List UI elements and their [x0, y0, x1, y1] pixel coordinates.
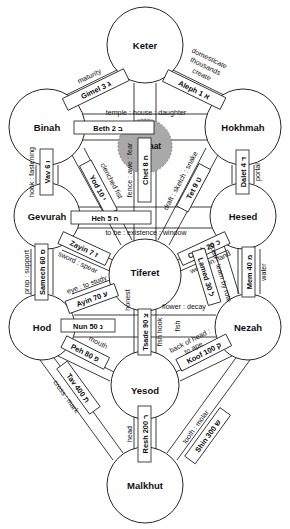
resh-meaning: head	[126, 426, 134, 442]
path-label-tsade[interactable]: Tsade 90 צ fish hook	[138, 309, 164, 355]
nun-letter-label: Nun 50 נ	[73, 322, 103, 331]
resh-letter-label: Resh 200 ר	[141, 415, 150, 454]
path-label-shin[interactable]: Shin 300 ש tooth : molar	[175, 401, 230, 464]
flower-decay-label: flower : decay	[162, 303, 206, 311]
samech-meaning: prop : support	[23, 250, 31, 294]
tiferet-label: Tiferet	[131, 267, 161, 278]
chet-letter-label: Chet 8 ח	[141, 155, 150, 185]
tree-of-life-diagram: Daat Keter Binah Hokhmah Gevurah Hes	[0, 0, 290, 529]
gevurah-label: Gevurah	[28, 211, 67, 222]
dalet-letter-label: Dalet 4 ד	[239, 156, 248, 187]
path-label-samech[interactable]: Samech 60 ס prop : support	[23, 244, 48, 300]
path-label-zayin[interactable]: Zayin 7 ז sword : spear	[52, 232, 110, 278]
hokhmah-label: Hokhmah	[221, 122, 264, 133]
binah-label: Binah	[34, 122, 61, 133]
path-label-chet[interactable]: Chet 8 ח fence : awe : fear	[126, 138, 151, 202]
beth-letter-label: Beth 2 ב	[93, 124, 123, 133]
beth-meaning: temple : house : daughter	[106, 109, 187, 117]
nun-meaning: fish	[174, 320, 182, 331]
path-label-mem[interactable]: Mem 40 מ water	[242, 247, 268, 297]
path-label-yod[interactable]: Yod 10 י clenched fist	[80, 154, 128, 215]
heh-letter-label: Heh 5 ה	[91, 214, 118, 223]
sefira-nezah[interactable]: Nezah	[215, 294, 281, 360]
tsade-letter-label: Tsade 90 צ	[141, 313, 150, 351]
path-label-heh[interactable]: Heh 5 ה to be : existence : window	[71, 211, 187, 237]
honest-label: honest	[124, 289, 132, 310]
yesod-label: Yesod	[131, 385, 159, 396]
path-label-tav[interactable]: Tav 400 ת cross : mark	[46, 361, 100, 422]
hesed-label: Hesed	[229, 211, 258, 222]
path-line-shin-a	[177, 360, 250, 460]
tsade-meaning: fish hook	[156, 317, 164, 346]
path-label-vav[interactable]: Vav 6 ו hook : fastening	[28, 147, 53, 197]
tree-of-life-svg: Daat Keter Binah Hokhmah Gevurah Hes	[0, 0, 290, 529]
sefira-tiferet[interactable]: Tiferet	[109, 239, 181, 311]
malkhut-label: Malkhut	[127, 480, 164, 491]
path-label-tet[interactable]: Tet 9 ט draft : sketch : snake	[162, 150, 215, 220]
dalet-meaning: portal	[254, 163, 262, 181]
mem-letter-label: Mem 40 מ	[245, 255, 254, 290]
nezah-label: Nezah	[234, 322, 262, 333]
path-label-beth[interactable]: Beth 2 ב temple : house : daughter	[74, 109, 187, 134]
mem-meaning: water	[260, 263, 268, 282]
vav-letter-label: Vav 6 ו	[43, 160, 52, 183]
hod-label: Hod	[33, 322, 52, 333]
heh-meaning: to be : existence : window	[105, 229, 187, 237]
vav-meaning: hook : fastening	[28, 147, 36, 197]
chet-meaning: fence : awe : fear	[126, 142, 134, 197]
samech-letter-label: Samech 60 ס	[38, 249, 47, 295]
keter-label: Keter	[133, 40, 158, 51]
